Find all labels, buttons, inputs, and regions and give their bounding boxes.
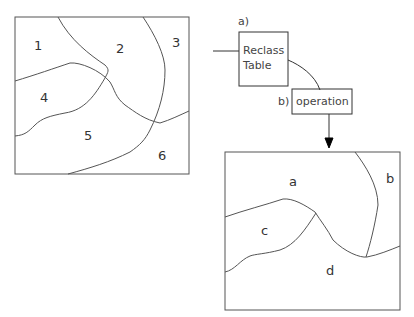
zone-label-c: c: [261, 223, 268, 238]
boundary-a-b: [355, 152, 378, 257]
zone-label-2: 2: [116, 41, 124, 56]
zone-label-4: 4: [40, 90, 48, 105]
output-map-frame: [225, 152, 400, 310]
step-a-marker: a): [238, 15, 249, 28]
zone-label-d: d: [326, 263, 334, 278]
input-map-labels: 1 2 3 4 5 6: [34, 35, 180, 163]
step-b-marker: b): [278, 95, 289, 108]
arrow-down-icon: [325, 138, 333, 148]
reclass-table-line1: Reclass: [243, 44, 284, 57]
zone-label-3: 3: [172, 35, 180, 50]
operation-label: operation: [296, 95, 349, 108]
reclass-diagram: 1 2 3 4 5 6 a) Reclass Table b) operatio…: [0, 0, 414, 317]
zone-label-b: b: [386, 171, 394, 186]
zone-label-a: a: [289, 174, 297, 189]
zone-label-5: 5: [84, 128, 92, 143]
boundary-c-d: [225, 213, 316, 272]
zone-label-6: 6: [158, 148, 166, 163]
zone-label-1: 1: [34, 38, 42, 53]
output-map: [225, 152, 400, 310]
connector-a-b: [288, 60, 320, 90]
reclass-table-line2: Table: [242, 59, 272, 72]
